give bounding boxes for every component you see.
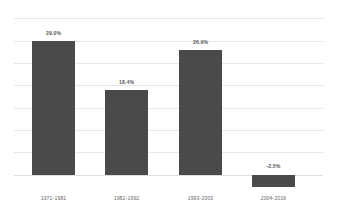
bar-chart: 29.0% 1971-1981 18.4% 1982-1992 26.9% 19…: [0, 0, 337, 220]
category-label: 2004-2016: [252, 195, 295, 201]
bar-value-label: 26.9%: [179, 39, 222, 45]
bar-group: -2.5% 2004-2016: [252, 0, 295, 220]
plot-area: 29.0% 1971-1981 18.4% 1982-1992 26.9% 19…: [0, 0, 337, 220]
bar-value-label: 29.0%: [32, 30, 75, 36]
bar-group: 18.4% 1982-1992: [105, 0, 148, 220]
bar[interactable]: [105, 90, 148, 175]
category-label: 1982-1992: [105, 195, 148, 201]
bar-value-label: 18.4%: [105, 79, 148, 85]
bar[interactable]: [179, 50, 222, 175]
bar[interactable]: [252, 175, 295, 187]
bar-group: 26.9% 1993-2003: [179, 0, 222, 220]
bar-group: 29.0% 1971-1981: [32, 0, 75, 220]
category-label: 1971-1981: [32, 195, 75, 201]
category-label: 1993-2003: [179, 195, 222, 201]
bar[interactable]: [32, 41, 75, 175]
bar-value-label: -2.5%: [252, 163, 295, 169]
